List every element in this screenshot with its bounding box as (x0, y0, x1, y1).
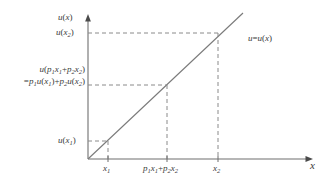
y-axis-arrow-icon (85, 14, 91, 22)
y-value-label-u-x2: u(x2) (56, 27, 74, 38)
x-axis-label: x (310, 160, 315, 171)
y-value-label-u-mid-line1: u(p1x1+p2x2) (11, 64, 85, 75)
x-tick-label-mid: p1x1+p2x2 (143, 163, 178, 174)
y-value-label-u-x1: u(x1) (58, 135, 76, 146)
utility-curve (88, 13, 243, 159)
y-axis-label: u(x) (58, 12, 73, 23)
x-tick-label-x2: x2 (213, 163, 220, 174)
y-value-label-u-mid-line2: =p1u(x1)+p2u(x2) (8, 76, 85, 87)
curve-label: u=u(x) (248, 33, 272, 44)
x-tick-label-x1: x1 (103, 163, 110, 174)
utility-function-figure: u(x) u(x2) u(p1x1+p2x2) =p1u(x1)+p2u(x2)… (0, 0, 329, 182)
figure-canvas (0, 0, 329, 182)
